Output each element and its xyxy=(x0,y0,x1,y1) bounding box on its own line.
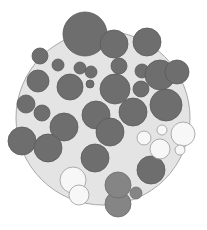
circle-node-light xyxy=(171,122,195,146)
circle-node-dark xyxy=(27,70,49,92)
circle-node-dark xyxy=(52,59,64,71)
circle-node-dark xyxy=(96,118,124,146)
circle-node-dark xyxy=(81,144,109,172)
circle-node-dark xyxy=(137,156,165,184)
circle-node-dark xyxy=(100,74,130,104)
circle-node-light xyxy=(157,125,167,135)
circle-packing-diagram xyxy=(0,0,207,230)
circle-node-dark xyxy=(8,127,36,155)
circle-node-dark xyxy=(74,62,86,74)
circle-node-dark xyxy=(119,98,147,126)
circle-node-dark xyxy=(34,134,62,162)
circle-node-dark xyxy=(133,28,161,56)
circle-node-light xyxy=(175,145,185,155)
circle-node-light xyxy=(137,131,151,145)
circle-node-mid xyxy=(105,172,131,198)
circle-node-dark xyxy=(32,48,48,64)
circle-node-dark xyxy=(17,95,35,113)
circle-node-dark xyxy=(85,66,97,78)
circle-node-dark xyxy=(133,81,149,97)
circle-node-dark xyxy=(57,74,83,100)
circle-node-dark xyxy=(63,12,107,56)
circle-node-light xyxy=(150,139,170,159)
circle-node-dark xyxy=(86,80,94,88)
circle-node-light xyxy=(69,185,89,205)
circle-node-dark xyxy=(150,89,182,121)
circle-node-dark xyxy=(111,58,127,74)
circle-node-dark xyxy=(34,105,50,121)
circle-node-dark xyxy=(165,60,189,84)
circle-node-mid xyxy=(130,187,142,199)
circle-node-dark xyxy=(100,30,128,58)
